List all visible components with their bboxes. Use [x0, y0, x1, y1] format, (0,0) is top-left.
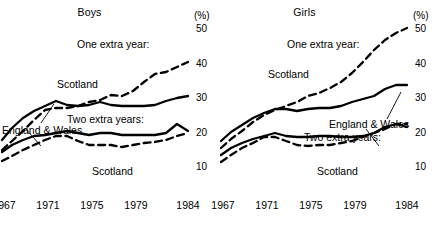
boys-ytick-50: 50: [196, 23, 220, 34]
chart-figure: Boys One extra year: Scotland Two extra …: [0, 0, 437, 231]
boys-annot-england-wales: England & Wales: [2, 124, 82, 136]
girls-ytick-20: 20: [415, 127, 437, 138]
girls-ytick-30: 30: [415, 92, 437, 103]
girls-annot-one-extra-year: One extra year:: [287, 38, 359, 50]
girls-annot-england-wales: England & Wales: [329, 118, 409, 130]
boys-xtick-1984: 1984: [168, 199, 208, 211]
girls-annot-scotland-upper: Scotland: [268, 68, 309, 80]
boys-xtick-1979: 1979: [116, 199, 156, 211]
girls-annot-scotland-lower: Scotland: [317, 165, 358, 177]
boys-annot-one-extra-year: One extra year:: [77, 38, 149, 50]
boys-xtick-1971: 1971: [28, 199, 68, 211]
boys-annot-scotland-upper: Scotland: [57, 78, 98, 90]
girls-xtick-1971: 1971: [247, 199, 287, 211]
girls-curves: [219, 0, 434, 231]
boys-xtick-1967: 1967: [0, 199, 24, 211]
girls-leader-one-extra: [387, 92, 401, 119]
girls-annot-two-extra-years: Two extra years:: [304, 131, 381, 143]
girls-ytick-10: 10: [415, 161, 437, 172]
girls-xtick-1967: 1967: [203, 199, 243, 211]
girls-unit-label: (%): [413, 10, 429, 21]
boys-xtick-1975: 1975: [72, 199, 112, 211]
boys-ytick-10: 10: [196, 161, 220, 172]
panel-boys: Boys One extra year: Scotland Two extra …: [0, 0, 215, 231]
boys-ytick-30: 30: [196, 92, 220, 103]
girls-ytick-50: 50: [415, 23, 437, 34]
girls-xtick-1984: 1984: [387, 199, 427, 211]
boys-ytick-20: 20: [196, 127, 220, 138]
girls-xtick-1975: 1975: [291, 199, 331, 211]
boys-annot-scotland-lower: Scotland: [92, 165, 133, 177]
girls-ytick-40: 40: [415, 58, 437, 69]
boys-ytick-40: 40: [196, 58, 220, 69]
panel-girls: Girls One extra year: Scotland England &…: [219, 0, 434, 231]
girls-xtick-1979: 1979: [335, 199, 375, 211]
